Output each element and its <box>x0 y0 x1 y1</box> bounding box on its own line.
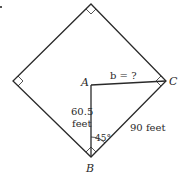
label-AB-value: 60.5 <box>71 106 93 117</box>
segment-AC <box>91 81 166 85</box>
point-label-C: C <box>169 75 178 88</box>
stray-mark <box>0 6 2 8</box>
right-angle-left-icon <box>18 76 23 86</box>
label-BC: 90 feet <box>130 122 165 133</box>
point-label-A: A <box>80 76 89 89</box>
right-angle-top-icon <box>86 9 96 14</box>
label-AB-unit: feet <box>72 118 92 129</box>
label-angle-B: 45° <box>95 133 111 143</box>
diamond-square <box>13 4 166 157</box>
point-label-B: B <box>85 162 94 175</box>
diagram-canvas: A C B b = ? 60.5 feet 90 feet 45° <box>0 0 180 181</box>
label-b-unknown: b = ? <box>110 70 137 81</box>
